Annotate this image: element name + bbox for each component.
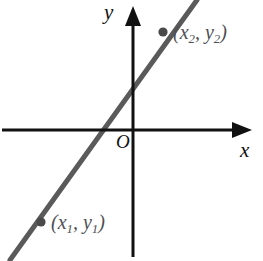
origin-label: O	[116, 132, 130, 151]
point-1-label-x-sub: 1	[67, 222, 73, 236]
point-2-label-x-sub: 2	[189, 32, 195, 46]
point-2-label-y-var: y	[205, 21, 214, 43]
x-axis-label: x	[240, 140, 249, 161]
point-1-label-y-var: y	[83, 211, 92, 233]
coordinate-plane-figure: y x O (x2, y2) (x1, y1)	[0, 0, 263, 261]
x-axis-arrowhead	[232, 122, 252, 138]
y-axis-arrowhead	[125, 6, 141, 26]
point-1-label-y-sub: 1	[92, 222, 98, 236]
point-2-label-y-sub: 2	[214, 32, 220, 46]
y-axis-label: y	[104, 2, 113, 23]
point-marker-2	[158, 27, 167, 36]
point-2-label: (x2, y2)	[173, 22, 227, 45]
point-marker-1	[36, 217, 45, 226]
point-1-label: (x1, y1)	[51, 212, 105, 235]
point-1-label-x-var: x	[58, 211, 67, 233]
point-2-label-x-var: x	[180, 21, 189, 43]
